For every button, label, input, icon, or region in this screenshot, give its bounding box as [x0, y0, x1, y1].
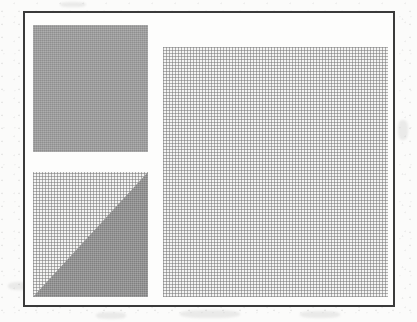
scan-smudge [398, 120, 408, 140]
scan-smudge [60, 2, 86, 7]
scan-smudge [300, 311, 340, 318]
scan-smudge [96, 312, 126, 319]
block-right [163, 47, 388, 297]
scan-smudge [180, 310, 240, 318]
figure-page [0, 0, 417, 322]
block-top-left [33, 25, 148, 152]
block-bottom-left [33, 172, 148, 297]
figure-border [23, 11, 395, 307]
diagonal-triangle-shape [33, 172, 148, 297]
